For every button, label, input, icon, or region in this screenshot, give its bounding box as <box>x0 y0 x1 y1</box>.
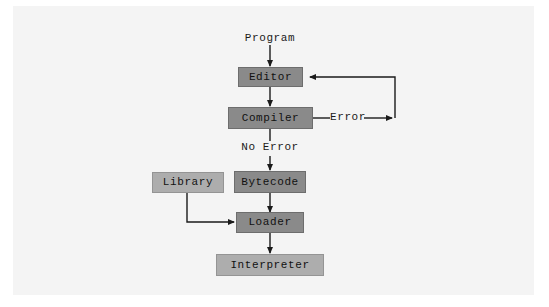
node-interpreter-label: Interpreter <box>230 260 309 271</box>
figure-root: Program Error No Error Editor Compiler B… <box>0 0 549 307</box>
node-compiler-label: Compiler <box>242 113 300 124</box>
label-error: Error <box>330 112 364 123</box>
node-editor[interactable]: Editor <box>238 67 303 87</box>
label-program: Program <box>240 33 300 44</box>
node-bytecode[interactable]: Bytecode <box>234 171 306 193</box>
node-interpreter[interactable]: Interpreter <box>216 254 324 276</box>
node-loader[interactable]: Loader <box>236 212 304 233</box>
node-compiler[interactable]: Compiler <box>228 107 313 129</box>
edge-library-to-loader <box>187 193 234 222</box>
label-no-error: No Error <box>234 142 306 153</box>
node-loader-label: Loader <box>248 217 291 228</box>
node-library-label: Library <box>163 177 213 188</box>
node-bytecode-label: Bytecode <box>241 177 299 188</box>
node-editor-label: Editor <box>249 72 292 83</box>
node-library[interactable]: Library <box>152 172 224 193</box>
